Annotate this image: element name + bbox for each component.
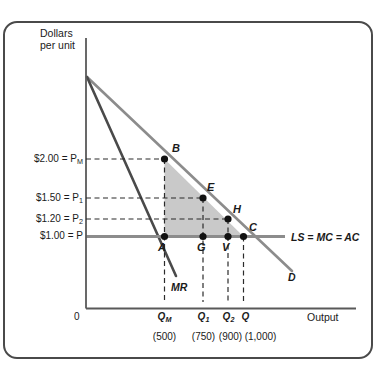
data-point-H [224, 215, 231, 222]
demand-curve [87, 77, 292, 271]
x-axis-title: Output [307, 311, 339, 323]
point-label-B: B [172, 142, 180, 155]
quantity-value-q: (1,000) [234, 331, 287, 343]
economics-chart: Dollars per unit $2.00 = PM $1.50 = P1 $… [0, 0, 384, 376]
point-label-H: H [233, 203, 241, 216]
y-axis-title-line2: per unit [40, 39, 75, 51]
price-tick-p2: $1.20 = P2 [0, 213, 83, 225]
price-tick-p1: $1.50 = P1 [0, 192, 83, 204]
point-label-C: C [249, 221, 257, 234]
y-axis-title-line1: Dollars [40, 27, 75, 39]
quantity-tick-q: Q [229, 311, 262, 323]
price-tick-p: $1.00 = P [0, 230, 83, 242]
quantity-tick-qm: QM [148, 311, 181, 323]
origin-label: 0 [74, 311, 80, 323]
data-point-A [161, 233, 168, 240]
curve-label-marginal-revenue: MR [171, 281, 187, 293]
point-label-E: E [207, 181, 214, 194]
curve-label-supply: LS = MC = AC [291, 231, 359, 243]
point-label-G: G [197, 241, 206, 254]
data-point-E [199, 194, 206, 201]
point-label-V: V [222, 241, 229, 254]
point-label-A: A [158, 241, 166, 254]
data-point-B [161, 155, 168, 162]
data-point-V [224, 233, 231, 240]
data-point-G [199, 233, 206, 240]
data-point-C [240, 233, 247, 240]
curve-label-demand: D [288, 271, 296, 283]
y-axis-title: Dollars per unit [40, 27, 75, 51]
price-tick-pm: $2.00 = PM [0, 153, 83, 165]
